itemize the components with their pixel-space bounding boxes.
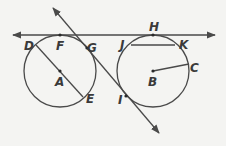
label-e: E xyxy=(86,92,95,106)
label-d: D xyxy=(24,39,34,53)
label-g: G xyxy=(87,41,97,55)
label-k: K xyxy=(179,38,190,52)
label-a: A xyxy=(54,75,64,89)
point-i xyxy=(124,94,127,97)
label-b: B xyxy=(148,75,157,89)
point-b xyxy=(151,69,154,72)
label-i: I xyxy=(118,93,123,107)
geometry-diagram: D F G A E H J K C B I xyxy=(0,0,226,146)
label-h: H xyxy=(149,20,159,34)
label-f: F xyxy=(56,39,65,53)
radius-bc xyxy=(153,64,189,71)
label-c: C xyxy=(190,61,199,75)
point-a xyxy=(58,69,61,72)
point-f xyxy=(58,33,61,36)
secant-line-gi xyxy=(53,8,159,133)
label-j: J xyxy=(118,38,125,52)
